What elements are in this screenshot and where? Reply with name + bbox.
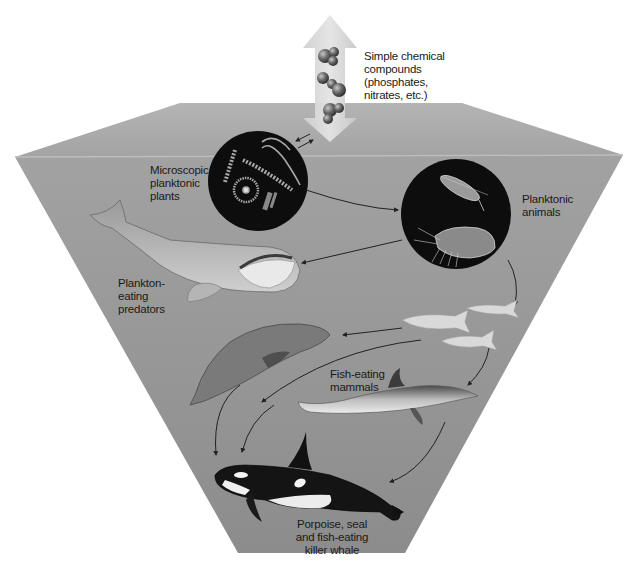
label-fish-eating-mammals: Fish-eating mammals: [330, 368, 400, 394]
nutrient-exchange-arrow-icon: [303, 15, 357, 142]
label-line: and fish-eating: [284, 531, 380, 544]
label-line: Microscopic: [150, 164, 209, 177]
label-line: Fish-eating mammals: [330, 368, 400, 394]
food-web-diagram: [0, 0, 638, 566]
label-line: Plankton-: [118, 277, 165, 290]
label-chemical-compounds: Simple chemical compounds (phosphates, n…: [364, 50, 445, 102]
label-line: Porpoise, seal: [284, 518, 380, 531]
label-line: animals: [522, 206, 573, 219]
planktonic-plants-circle: [208, 131, 308, 231]
label-line: Planktonic: [522, 193, 573, 206]
label-line: predators: [118, 303, 165, 316]
label-planktonic-plants: Microscopic planktonic plants: [150, 164, 209, 203]
label-plankton-eating-predators: Plankton- eating predators: [118, 277, 165, 316]
label-line: nitrates, etc.): [364, 89, 445, 102]
label-planktonic-animals: Planktonic animals: [522, 193, 573, 219]
label-line: killer whale: [284, 544, 380, 557]
label-line: (phosphates,: [364, 76, 445, 89]
planktonic-animals-circle: [401, 159, 511, 269]
label-killer-whale: Porpoise, seal and fish-eating killer wh…: [284, 518, 380, 557]
label-line: planktonic: [150, 177, 209, 190]
label-line: eating: [118, 290, 165, 303]
label-line: compounds: [364, 63, 445, 76]
label-line: Simple chemical: [364, 50, 445, 63]
label-line: plants: [150, 190, 209, 203]
